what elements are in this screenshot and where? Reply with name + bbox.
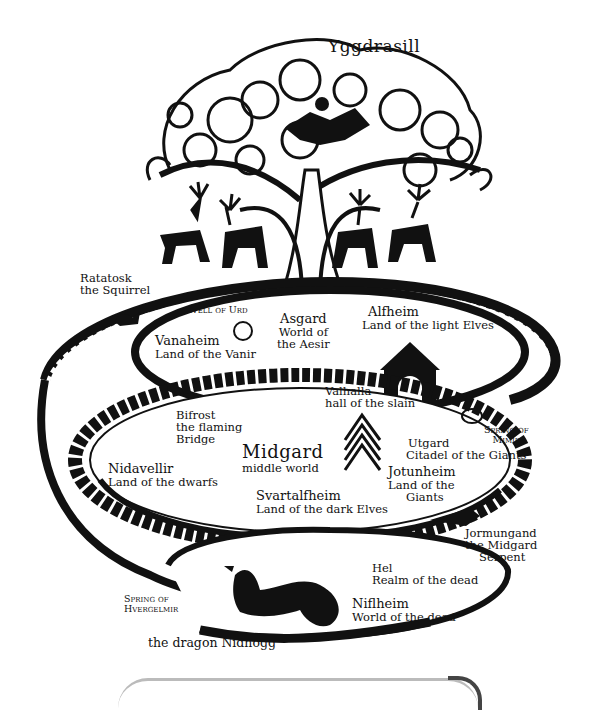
label-nidhogg: the dragon Nidhogg (148, 636, 276, 649)
label-ratatosk: Ratatosk the Squirrel (80, 272, 150, 296)
label-niflheim: Niflheim World of the dead (352, 597, 456, 623)
label-jotunheim: Jotunheim Land of the Giants (388, 465, 456, 503)
label-well-of-urd: Well of Urd (188, 305, 248, 315)
label-vanaheim: Vanaheim Land of the Vanir (155, 334, 256, 360)
title-yggdrasill: Yggdrasill (328, 38, 420, 56)
label-nidavellir: Nidavellir Land of the dwarfs (108, 462, 218, 488)
label-spring-of-hvergelmir: Spring of Hvergelmir (124, 594, 178, 614)
label-svartalfheim: Svartalfheim Land of the dark Elves (256, 489, 388, 515)
label-jormungand: Jormungand the Midgard Serpent (465, 527, 537, 563)
label-hel: Hel Realm of the dead (372, 562, 478, 586)
label-alfheim: Alfheim Land of the light Elves (362, 305, 494, 331)
label-asgard: Asgard World of the Aesir (277, 312, 330, 350)
eagle (285, 108, 370, 145)
label-spring-of-mimir: Spring of Mimir (484, 425, 529, 445)
bottom-partial-frame (118, 678, 478, 714)
label-bifrost: Bifrost the flaming Bridge (176, 409, 242, 445)
label-midgard: Midgard middle world (242, 443, 324, 474)
label-valhalla: Valhalla hall of the slain (325, 385, 415, 409)
